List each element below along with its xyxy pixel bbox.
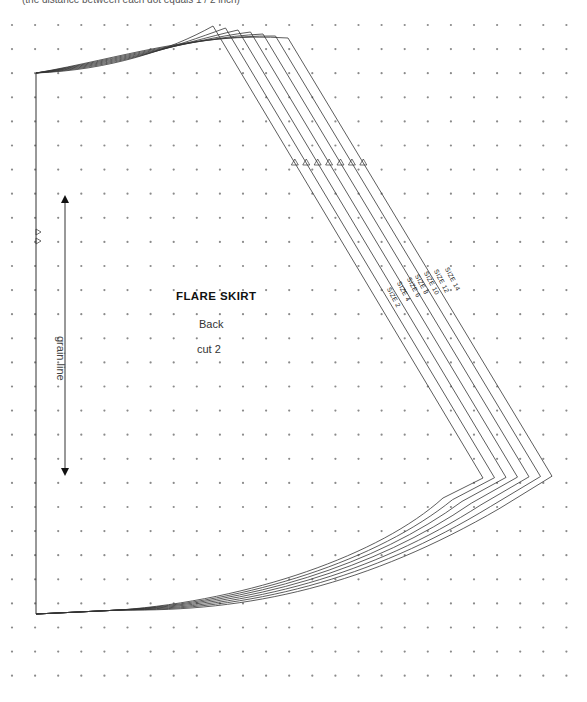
pattern-piece-name: Back	[199, 318, 223, 330]
pattern-canvas	[0, 0, 587, 702]
size-outline-size-6	[36, 30, 506, 614]
pattern-cut-count: cut 2	[197, 343, 221, 355]
scale-caption: (the distance between each dot equals 1 …	[22, 0, 240, 5]
dot-grid	[11, 24, 568, 677]
grain-line-label: grain line	[55, 336, 67, 381]
size-outline-size-4	[36, 28, 495, 614]
pattern-title: FLARE SKIRT	[176, 290, 256, 302]
side-seam-notches	[291, 159, 366, 165]
size-outlines	[36, 26, 552, 614]
notch-icon	[36, 229, 41, 235]
notch-icon	[36, 238, 41, 244]
size-outline-size-8	[36, 32, 518, 614]
